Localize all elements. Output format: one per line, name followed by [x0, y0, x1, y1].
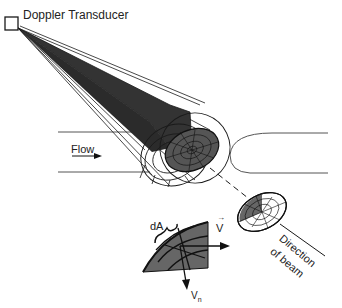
velocity-label: →V: [216, 222, 223, 234]
velocity-letter: V: [216, 222, 223, 234]
vn-subscript: n: [198, 296, 202, 303]
flow-label: Flow: [71, 143, 94, 155]
beam-core: [18, 28, 192, 148]
beam-direction-line: [210, 168, 248, 198]
vector-mark: →: [217, 213, 225, 222]
dA-label: dA: [150, 220, 163, 232]
detached-disc: [231, 185, 293, 239]
transducer-icon: [5, 17, 18, 30]
vessel-right: [230, 133, 328, 173]
normal-velocity-label: Vn: [191, 290, 202, 303]
transducer-label: Doppler Transducer: [23, 8, 128, 22]
vn-letter: V: [191, 290, 198, 301]
